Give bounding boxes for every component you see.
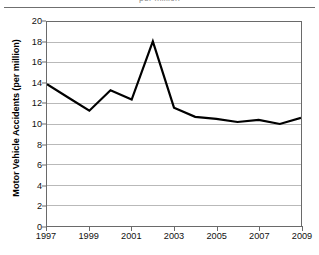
y-axis-ticks: 02468101214161820	[0, 21, 42, 227]
line-series	[47, 22, 301, 226]
x-tick-mark	[217, 226, 218, 231]
x-tick-label: 2009	[277, 231, 319, 241]
x-tick-mark	[46, 226, 47, 231]
chart-figure: per million Motor Vehicle Accidents (per…	[0, 0, 319, 255]
caption-strip: per million	[0, 0, 319, 9]
y-tick-label: 6	[2, 160, 42, 170]
x-tick-mark	[302, 226, 303, 231]
y-tick-label: 2	[2, 201, 42, 211]
x-axis-ticks: 1997199920012003200520072009	[46, 231, 302, 247]
y-tick-label: 14	[2, 78, 42, 88]
y-tick-label: 8	[2, 140, 42, 150]
x-tick-mark	[259, 226, 260, 231]
y-tick-label: 18	[2, 37, 42, 47]
y-tick-label: 12	[2, 98, 42, 108]
y-tick-label: 10	[2, 119, 42, 129]
x-tick-mark	[174, 226, 175, 231]
y-tick-label: 4	[2, 181, 42, 191]
y-tick-label: 20	[2, 16, 42, 26]
caption-clipped-text: per million	[0, 0, 319, 3]
x-tick-mark	[89, 226, 90, 231]
y-tick-label: 16	[2, 57, 42, 67]
plot-area	[46, 21, 302, 227]
caption-divider	[4, 7, 315, 8]
x-tick-mark	[131, 226, 132, 231]
